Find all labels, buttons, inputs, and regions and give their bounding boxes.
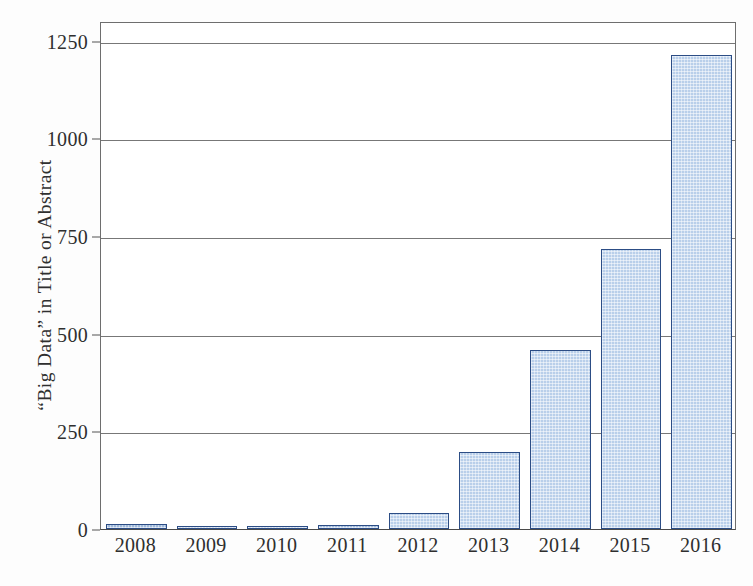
- y-tick-mark: [92, 139, 100, 140]
- bar: [318, 525, 379, 529]
- bar: [247, 526, 308, 529]
- y-tick-label: 500: [57, 323, 88, 346]
- bar: [389, 513, 450, 529]
- y-tick-label: 750: [57, 225, 88, 248]
- x-tick-label: 2013: [468, 534, 509, 557]
- bar: [530, 350, 591, 529]
- y-axis-tick-labels: 025050075010001250: [38, 0, 100, 586]
- y-tick-mark: [92, 530, 100, 531]
- x-tick-label: 2015: [609, 534, 650, 557]
- bar: [459, 452, 520, 529]
- y-tick-label: 0: [78, 519, 88, 542]
- x-axis-tick-labels: 200820092010201120122013201420152016: [100, 534, 736, 574]
- x-tick-label: 2011: [327, 534, 367, 557]
- y-tick-mark: [92, 334, 100, 335]
- x-tick-label: 2012: [397, 534, 438, 557]
- x-tick-label: 2008: [115, 534, 156, 557]
- y-tick-label: 250: [57, 421, 88, 444]
- x-tick-label: 2014: [539, 534, 580, 557]
- x-tick-label: 2009: [185, 534, 226, 557]
- y-tick-label: 1000: [47, 128, 88, 151]
- bar: [177, 526, 238, 529]
- x-tick-label: 2016: [680, 534, 721, 557]
- x-tick-label: 2010: [256, 534, 297, 557]
- y-tick-label: 1250: [47, 30, 88, 53]
- bar: [671, 55, 732, 529]
- y-tick-mark: [92, 236, 100, 237]
- bar: [601, 249, 662, 529]
- chart-figure: “Big Data” in Title or Abstract 02505007…: [0, 0, 753, 586]
- y-tick-mark: [92, 41, 100, 42]
- bar: [106, 524, 167, 529]
- y-tick-mark: [92, 432, 100, 433]
- bar-series: [101, 23, 735, 529]
- plot-area: [100, 22, 736, 530]
